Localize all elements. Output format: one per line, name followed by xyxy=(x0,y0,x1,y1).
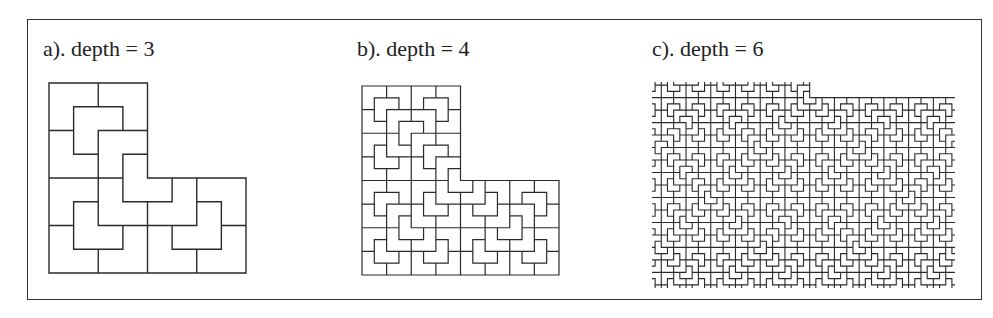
panel-c-tiling xyxy=(652,82,955,288)
panel-a-tiling xyxy=(49,83,246,273)
tiling-c-graphic xyxy=(652,82,955,288)
panel-b-tiling xyxy=(362,86,559,275)
panel-a-label: a). depth = 3 xyxy=(43,38,154,60)
tiling-b-graphic xyxy=(362,86,559,275)
panel-c-label: c). depth = 6 xyxy=(652,38,763,60)
panel-b-label: b). depth = 4 xyxy=(357,38,470,60)
tiling-a-graphic xyxy=(49,83,246,273)
